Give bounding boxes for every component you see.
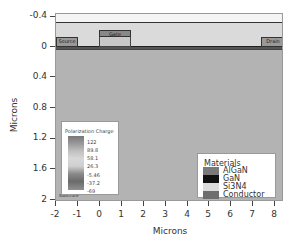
gan-swatch	[203, 175, 219, 183]
x-tick-label: 1	[113, 209, 129, 219]
x-tick	[274, 201, 275, 206]
x-tick	[187, 201, 188, 206]
x-tick	[77, 201, 78, 206]
x-tick-label: 0	[91, 209, 107, 219]
si3n4-layer	[56, 22, 282, 47]
x-tick	[99, 201, 100, 206]
x-tick-label: -2	[47, 209, 63, 219]
y-axis-label: Microns	[9, 95, 19, 135]
colorbar-value: 122	[87, 139, 97, 145]
colorbar-value: -69	[87, 188, 95, 194]
x-tick-label: 5	[200, 209, 216, 219]
x-tick-label: 8	[266, 209, 282, 219]
x-tick	[252, 201, 253, 206]
x-tick	[165, 201, 166, 206]
gate-under-region	[99, 37, 131, 47]
si3n4-swatch	[203, 183, 219, 191]
gate-electrode: Gate	[99, 30, 131, 37]
y-tick-label: 0.4	[27, 71, 47, 81]
y-tick-label: 1.2	[27, 132, 47, 142]
y-tick-label: 0	[27, 41, 47, 51]
polarization-legend-title: Polarization Charge	[65, 128, 114, 134]
algan-swatch	[203, 167, 219, 175]
colorbar-value: -5.46	[87, 172, 100, 178]
y-tick-label: 0.8	[27, 102, 47, 112]
materials-legend: Materials AlGaN GaN Si3N4 Conductor	[197, 153, 276, 198]
y-tick-label: 1.6	[27, 163, 47, 173]
x-tick-label: -1	[69, 209, 85, 219]
x-tick-label: 3	[157, 209, 173, 219]
y-tick-label: -0.4	[27, 10, 47, 20]
source-electrode: Source	[56, 37, 78, 47]
colorbar-value: 58.1	[87, 155, 98, 161]
x-tick	[230, 201, 231, 206]
drain-label: Drain	[266, 38, 280, 44]
x-tick-label: 6	[222, 209, 238, 219]
y-tick-label: 2	[27, 194, 47, 204]
x-tick	[208, 201, 209, 206]
x-tick	[55, 201, 56, 206]
source-label: Source	[58, 38, 75, 44]
colorbar-value: -37.2	[87, 180, 100, 186]
colorbar-value: 89.8	[87, 147, 98, 153]
conductor-swatch	[203, 191, 219, 199]
colorbar-value: 26.3	[87, 163, 98, 169]
x-tick-label: 7	[244, 209, 260, 219]
x-axis-label: Microns	[150, 226, 190, 236]
x-tick-label: 2	[135, 209, 151, 219]
x-tick	[143, 201, 144, 206]
conductor-legend-label: Conductor	[223, 191, 264, 199]
polarization-charge-legend: Polarization Charge 122 89.8 58.1 26.3 -…	[61, 121, 119, 195]
polarization-colorbar	[68, 136, 84, 190]
x-tick-label: 4	[179, 209, 195, 219]
drain-electrode: Drain	[261, 37, 283, 47]
air-region	[56, 14, 282, 22]
x-tick	[121, 201, 122, 206]
